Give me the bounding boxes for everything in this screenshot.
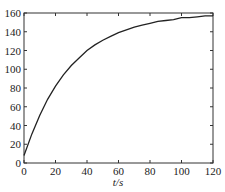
line-chart: 020406080100120140160 020406080100120 t/… xyxy=(0,0,225,192)
y-tick-label: 120 xyxy=(5,45,22,57)
y-tick-label: 20 xyxy=(10,138,22,150)
y-tick-label: 80 xyxy=(10,82,22,94)
y-tick-label: 140 xyxy=(5,26,22,38)
x-tick-label: 40 xyxy=(82,165,94,177)
x-tick-label: 0 xyxy=(21,165,27,177)
x-axis-label: t/s xyxy=(113,176,123,188)
x-tick-label: 20 xyxy=(50,165,62,177)
x-tick-label: 120 xyxy=(205,165,222,177)
y-tick-label: 60 xyxy=(10,101,22,113)
plot-frame xyxy=(24,13,213,163)
y-axis: 020406080100120140160 xyxy=(5,7,214,169)
x-tick-label: 100 xyxy=(173,165,190,177)
data-curve xyxy=(24,16,213,156)
x-axis: 020406080100120 xyxy=(21,13,222,177)
y-tick-label: 100 xyxy=(5,63,22,75)
y-tick-label: 40 xyxy=(10,120,22,132)
y-tick-label: 160 xyxy=(5,7,22,19)
x-tick-label: 80 xyxy=(145,165,157,177)
plot-border xyxy=(24,13,213,163)
